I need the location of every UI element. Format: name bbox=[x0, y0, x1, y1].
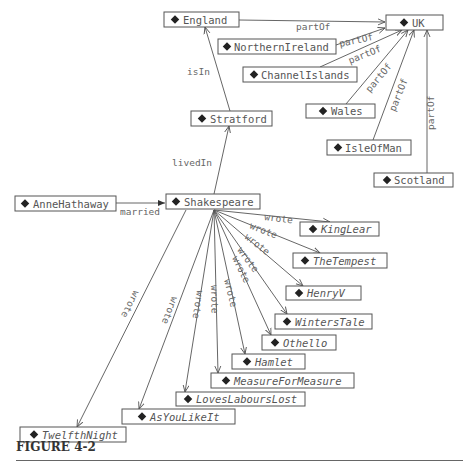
edge-label: wrote bbox=[222, 278, 240, 309]
node-uk[interactable]: UK bbox=[386, 15, 443, 30]
node-hamlet[interactable]: Hamlet bbox=[232, 354, 305, 369]
node-label: England bbox=[183, 14, 227, 26]
ontology-graph: partOf partOf partOf partOf partOf partO… bbox=[0, 0, 463, 468]
edge-label: wrote bbox=[191, 290, 206, 320]
node-label: Hamlet bbox=[254, 356, 293, 368]
edge-label: wrote bbox=[209, 285, 221, 314]
node-label: Stratford bbox=[210, 113, 267, 125]
node-channelislands[interactable]: ChannelIslands bbox=[243, 67, 357, 82]
node-asyoulikeit[interactable]: AsYouLikeIt bbox=[122, 409, 235, 424]
node-label: UK bbox=[412, 17, 425, 29]
node-henryv[interactable]: HenryV bbox=[286, 286, 361, 300]
figure-caption: FIGURE 4-2 bbox=[16, 440, 96, 454]
edge-wrote-measureformeasure: wrote bbox=[209, 210, 221, 373]
edge-label: isIn bbox=[187, 66, 210, 77]
node-shakespeare[interactable]: Shakespeare bbox=[166, 194, 260, 209]
node-label: KingLear bbox=[320, 223, 372, 235]
node-scotland[interactable]: Scotland bbox=[374, 173, 453, 187]
node-label: LovesLaboursLost bbox=[196, 393, 297, 405]
node-label: IsleOfMan bbox=[345, 142, 402, 154]
node-othello[interactable]: Othello bbox=[262, 335, 336, 350]
edge-label: partOf bbox=[296, 21, 330, 32]
node-winterstale[interactable]: WintersTale bbox=[275, 314, 372, 329]
edge-label: partOf bbox=[425, 96, 436, 130]
node-northernireland[interactable]: NorthernIreland bbox=[218, 39, 336, 54]
edge-label: married bbox=[120, 206, 160, 217]
node-loveslabourslost[interactable]: LovesLaboursLost bbox=[176, 392, 305, 406]
node-thetempest[interactable]: TheTempest bbox=[293, 253, 387, 268]
node-england[interactable]: England bbox=[164, 12, 239, 27]
caption-rule bbox=[16, 460, 463, 461]
node-label: WintersTale bbox=[295, 316, 365, 328]
node-label: NorthernIreland bbox=[234, 41, 329, 53]
edge-label: wrote bbox=[264, 211, 294, 225]
node-label: Shakespeare bbox=[184, 196, 254, 208]
node-label: Othello bbox=[283, 337, 327, 349]
node-label: Wales bbox=[331, 105, 363, 117]
edge-england-partof-uk: partOf bbox=[239, 20, 385, 32]
node-annehathaway[interactable]: AnneHathaway bbox=[15, 196, 116, 211]
node-measureformeasure[interactable]: MeasureForMeasure bbox=[211, 373, 354, 388]
edge-shakespeare-livedin-stratford: livedIn bbox=[172, 126, 229, 194]
node-wales[interactable]: Wales bbox=[306, 104, 375, 118]
edge-scotland-partof-uk: partOf bbox=[425, 30, 436, 173]
node-kinglear[interactable]: KingLear bbox=[300, 222, 379, 236]
node-label: TheTempest bbox=[313, 255, 376, 267]
node-label: ChannelIslands bbox=[261, 69, 350, 81]
node-label: Scotland bbox=[394, 174, 445, 186]
edge-label: wrote bbox=[160, 295, 181, 326]
node-label: HenryV bbox=[306, 287, 346, 299]
node-label: TwelfthNight bbox=[42, 429, 118, 441]
node-label: AnneHathaway bbox=[33, 198, 109, 210]
edge-annehathaway-married-shakespeare: married bbox=[116, 203, 165, 217]
node-stratford[interactable]: Stratford bbox=[191, 111, 272, 126]
edge-label: livedIn bbox=[172, 157, 212, 168]
node-label: AsYouLikeIt bbox=[149, 411, 220, 423]
node-label: MeasureForMeasure bbox=[233, 375, 341, 387]
node-isleofman[interactable]: IsleOfMan bbox=[327, 140, 411, 155]
